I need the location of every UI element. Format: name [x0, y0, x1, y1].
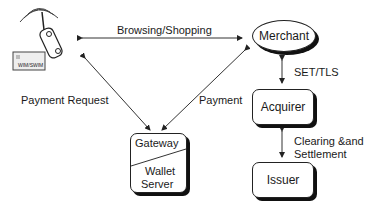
set-tls-label: SET/TLS — [294, 66, 339, 78]
acquirer-node: Acquirer — [252, 89, 314, 125]
gateway-wallet-node: Gateway Wallet Server — [130, 133, 187, 193]
clearing-label: Clearing &and — [294, 135, 364, 147]
browsing-label: Browsing/Shopping — [117, 24, 212, 36]
server-label: Server — [141, 178, 173, 190]
issuer-label: Issuer — [267, 173, 300, 187]
merchant-label: Merchant — [259, 29, 309, 43]
mobile-phone-icon — [13, 8, 64, 70]
wallet-label: Wallet — [145, 165, 175, 177]
acquirer-label: Acquirer — [261, 100, 306, 114]
merchant-node: Merchant — [252, 20, 316, 52]
payment-request-label: Payment Request — [21, 94, 108, 106]
sim-card-label: WIM/SWIM — [18, 62, 43, 68]
issuer-node: Issuer — [252, 162, 314, 198]
gateway-label: Gateway — [135, 137, 178, 149]
payment-label: Payment — [199, 94, 242, 106]
settlement-label: Settlement — [294, 148, 347, 160]
